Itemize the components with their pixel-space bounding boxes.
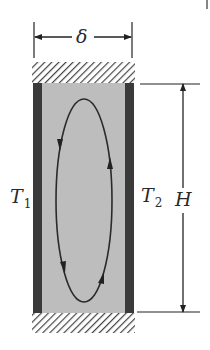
left-wall-temperature-label: T1 xyxy=(10,187,31,206)
right-wall xyxy=(125,83,134,313)
right-wall-temperature-label: T2 xyxy=(141,186,162,205)
bottom-insulation xyxy=(32,313,135,333)
temp-symbol: T xyxy=(141,184,154,206)
width-label: δ xyxy=(76,27,87,46)
fluid-region xyxy=(33,83,134,313)
left-wall xyxy=(33,83,42,313)
temp-subscript: 2 xyxy=(155,196,163,210)
top-insulation xyxy=(32,62,135,83)
enclosure-diagram xyxy=(0,0,210,350)
temp-symbol: T xyxy=(10,185,23,207)
temp-subscript: 1 xyxy=(24,197,32,211)
height-label: H xyxy=(175,190,192,209)
